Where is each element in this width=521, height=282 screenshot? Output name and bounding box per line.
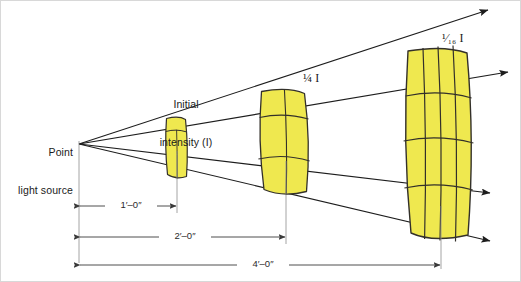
initial-intensity-label-line1: Initial — [141, 98, 231, 111]
surface-4ft — [404, 46, 474, 242]
initial-intensity-label: Initial intensity (I) — [141, 73, 231, 173]
quarter-intensity-label: ¼ I — [303, 72, 319, 85]
dimension-label-4ft: 4′–0″ — [237, 258, 289, 269]
surface-4ft-face — [406, 48, 472, 238]
dimension-label-2ft: 2′–0″ — [159, 230, 211, 241]
surface-2ft — [258, 89, 309, 195]
initial-intensity-label-line2: intensity (I) — [141, 136, 231, 149]
sixteenth-intensity-label: ¹⁄₁₆ I — [442, 32, 464, 45]
dimension-label-1ft: 1′–0″ — [105, 199, 157, 210]
point-light-source-label-line2: light source — [5, 184, 73, 197]
point-light-source-label-line1: Point — [5, 146, 73, 159]
point-light-source-label: Point light source — [5, 121, 73, 221]
surface-2ft-face — [260, 89, 308, 194]
figure-canvas: Point light source Initial intensity (I)… — [0, 0, 521, 282]
dimension-lines — [80, 206, 440, 265]
